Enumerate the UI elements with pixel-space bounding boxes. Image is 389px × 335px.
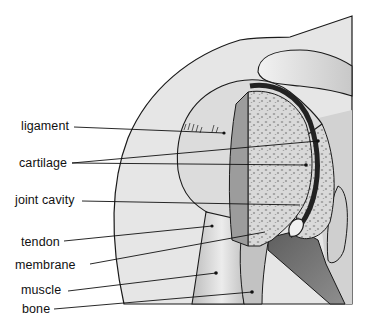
label-bone: bone [22,303,50,316]
label-tendon: tendon [21,236,60,249]
label-joint-cavity: joint cavity [15,194,75,207]
label-muscle: muscle [21,284,61,297]
label-membrane: membrane [15,259,76,272]
shoulder-joint-diagram: ligament cartilage joint cavity tendon m… [0,0,389,335]
label-cartilage: cartilage [19,157,67,170]
label-ligament: ligament [21,120,69,133]
